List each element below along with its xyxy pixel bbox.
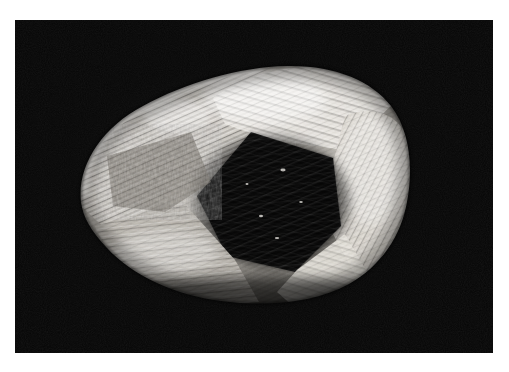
photographic-plate bbox=[15, 20, 493, 353]
photo-border-right bbox=[493, 0, 509, 372]
photo-border-left bbox=[0, 0, 15, 372]
photo-border-bottom bbox=[0, 353, 509, 372]
crystal-specimen bbox=[15, 20, 493, 353]
photo-page bbox=[0, 0, 509, 372]
photo-border-top bbox=[0, 0, 509, 20]
